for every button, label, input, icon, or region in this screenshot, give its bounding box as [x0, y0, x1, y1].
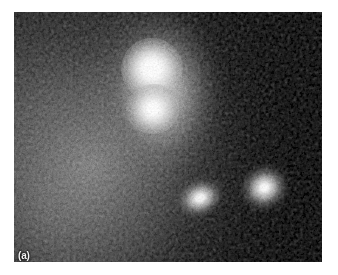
astronomical-sky-image: (a) [14, 12, 322, 262]
image-grain-coarse [14, 12, 322, 262]
figure-panel: (a) [0, 0, 338, 275]
background-nebulosity-layer [14, 12, 322, 262]
panel-label: (a) [18, 251, 30, 261]
source-upper-bright-nucleus [121, 38, 183, 100]
source-lower-left-companion [166, 167, 234, 229]
image-grain-dark [14, 12, 322, 262]
main-halo-layer [14, 12, 322, 262]
source-lower-bright-nucleus [126, 84, 180, 134]
source-lower-right-companion [226, 150, 305, 225]
image-grain-fine [14, 12, 322, 262]
